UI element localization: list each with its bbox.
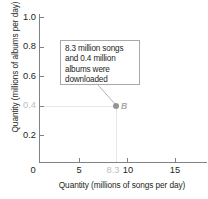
y-axis-tick-label-0-8: 0.8 [12,41,36,51]
x-axis-title: Quantity (millions of songs per day) [36,180,208,190]
x-axis-tick [175,158,176,163]
x-axis-tick [79,158,80,163]
y-axis-tick [40,76,44,77]
y-axis-tick-label-0-4: 0.4 [12,100,36,110]
origin-label: 0 [26,165,40,175]
x-axis-tick [127,158,128,163]
y-axis-tick-label-0-2: 0.2 [12,130,36,140]
x-axis-tick-label-5: 5 [66,165,92,175]
annotation-text: 8.3 million songs and 0.4 million albums… [65,44,139,85]
x-axis-tick-label-10: 10 [115,165,141,175]
y-axis-tick [40,47,44,48]
y-axis-tick-label-0-6: 0.6 [12,71,36,81]
annotation-callout: 8.3 million songs and 0.4 million albums… [60,40,140,85]
y-axis-tick [40,135,44,136]
vertical-guide-line [116,106,117,162]
data-point-b [113,103,119,109]
x-axis-line [39,162,207,163]
y-axis-line [39,14,40,163]
scatter-chart: Quantity (millions of albums per day) Qu… [0,0,208,199]
y-axis-tick [40,17,44,18]
y-axis-tick [40,106,44,107]
data-point-b-label: B [121,101,127,111]
x-axis-tick-label-15: 15 [162,165,188,175]
y-axis-tick-label-1-0: 1.0 [12,12,36,22]
